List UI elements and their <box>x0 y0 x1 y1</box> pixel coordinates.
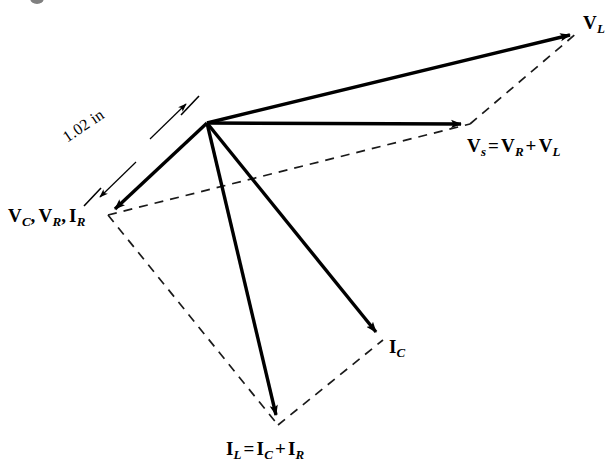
label-vl-base: V <box>583 12 597 33</box>
label-vc-subscript: C <box>22 214 31 229</box>
label-vs-vr-subscript: R <box>515 144 524 159</box>
dashed-line-il-to-ic <box>278 340 383 425</box>
label-ic: IC <box>389 337 405 359</box>
label-il-subscript: L <box>234 447 242 462</box>
label-vc-base: V <box>8 205 22 226</box>
label-vs-vl-base: V <box>539 135 553 156</box>
label-vs-base: V <box>467 135 481 156</box>
label-ic-base: I <box>389 336 397 357</box>
label-vr-subscript: R <box>52 214 61 229</box>
label-equals-sign: = <box>486 135 501 156</box>
label-ir-base: I <box>69 205 77 226</box>
dimension-extension-tick-lower <box>84 188 101 206</box>
label-comma-2: , <box>61 205 69 226</box>
label-vc-vr-ir: VC,VR,IR <box>8 206 85 228</box>
label-vr-base: V <box>39 205 53 226</box>
vector-vl <box>207 35 570 123</box>
label-vl: VL <box>583 13 605 35</box>
label-ic-subscript: C <box>397 345 406 360</box>
label-comma-1: , <box>31 205 39 226</box>
label-il-equals-sign: = <box>242 438 257 459</box>
vector-vc-vr-ir <box>115 123 207 209</box>
dimension-leader-lower <box>100 162 136 197</box>
vector-vs <box>207 123 461 124</box>
label-vs-vl-subscript: L <box>553 144 561 159</box>
label-il-ic-subscript: C <box>264 447 273 462</box>
label-il-base: I <box>226 438 234 459</box>
dimension-leader-upper <box>150 104 186 139</box>
diagram-canvas <box>0 0 613 471</box>
dashed-line-vc-to-vs <box>108 124 470 215</box>
label-vs-vr-base: V <box>501 135 515 156</box>
label-il-equation: IL=IC+IR <box>226 439 304 461</box>
label-il-ir-subscript: R <box>296 447 305 462</box>
solid-phasor-vectors <box>115 35 570 415</box>
label-ir-subscript: R <box>77 214 86 229</box>
label-il-ir-base: I <box>288 438 296 459</box>
label-vs-equation: Vs=VR+VL <box>467 136 561 158</box>
label-vl-subscript: L <box>597 21 605 36</box>
phasor-diagram-figure: VC,VR,IR Vs=VR+VL VL IC IL=IC+IR 1.02 in <box>0 0 613 471</box>
label-il-plus-sign: + <box>273 438 288 459</box>
label-plus-sign: + <box>524 135 539 156</box>
